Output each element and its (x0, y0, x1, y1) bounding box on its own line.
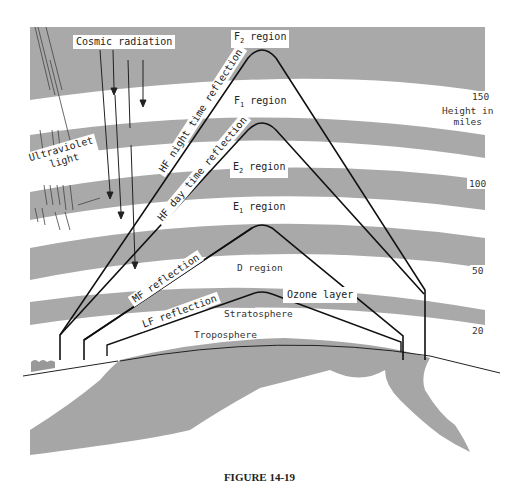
e1-word: region (249, 201, 285, 212)
figure-caption: FIGURE 14-19 (0, 471, 519, 483)
f1-sub: 1 (240, 101, 244, 109)
scale-tick-20: 20 (470, 325, 485, 336)
d-region-label: D region (237, 262, 283, 273)
f2-region-label: F2 region (231, 30, 289, 48)
ozone-layer-label: Ozone layer (283, 287, 357, 303)
scale-title-line1: Height in (442, 105, 493, 116)
f1-region-label: F1 region (231, 94, 289, 112)
cosmic-radiation-label: Cosmic radiation (73, 35, 175, 49)
scale-tick-150: 150 (470, 91, 491, 102)
e2-region-label: E2 region (230, 160, 288, 178)
stratosphere-label: Stratosphere (224, 308, 293, 319)
f2-word: region (250, 31, 286, 42)
e2-sub: 2 (239, 167, 243, 175)
f1-word: region (250, 95, 286, 106)
troposphere-label: Troposphere (194, 329, 257, 340)
diagram-graphic (0, 0, 519, 497)
e1-region-label: E1 region (230, 200, 288, 218)
scale-tick-100: 100 (467, 178, 488, 189)
f2-sub: 2 (240, 37, 244, 45)
e1-sub: 1 (239, 207, 243, 215)
scale-title-line2: miles (442, 116, 493, 127)
e2-word: region (249, 161, 285, 172)
scale-title: Height in miles (440, 105, 495, 127)
ionosphere-diagram: F2 region F1 region E2 region E1 region … (0, 0, 519, 497)
scale-tick-50: 50 (470, 265, 485, 276)
